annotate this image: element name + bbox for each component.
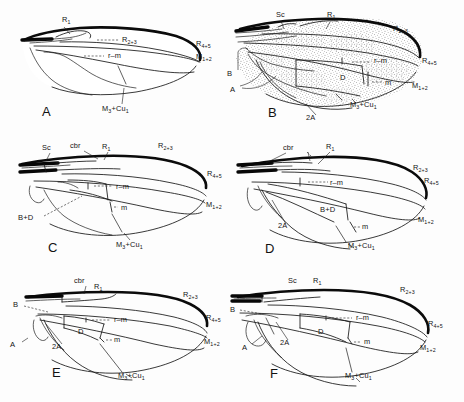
label-r45-b: R4+5 xyxy=(422,56,437,66)
panel-e-wing: E cbr R1 R2+3 B r–m R4+5 D m A 2A M1+2 M… xyxy=(10,276,221,381)
label-rm-e: r–m xyxy=(114,315,127,324)
label-sc-c: Sc xyxy=(42,143,51,152)
label-r45-d: R4+5 xyxy=(424,176,439,186)
label-m3cu1-c: M3+Cu1 xyxy=(116,240,143,250)
panel-letter-f: F xyxy=(270,366,278,381)
label-r1-c: R1 xyxy=(102,142,111,152)
label-m3cu1-d: M3+Cu1 xyxy=(348,241,375,251)
label-rm-c: r–m xyxy=(116,182,129,191)
panel-d-wing: D cbr R1 R2+3 R4+5 r–m B+D m M1+2 2A M3+… xyxy=(238,142,439,256)
label-r1-a: R1 xyxy=(62,15,71,25)
label-a-cell-e: A xyxy=(10,340,16,349)
label-2a-e: 2A xyxy=(52,342,61,351)
label-r1-d: R1 xyxy=(326,142,335,152)
label-rm-d: r–m xyxy=(330,178,343,187)
label-r23-c: R2+3 xyxy=(158,141,173,151)
label-sc-f: Sc xyxy=(288,276,297,285)
panel-letter-c: C xyxy=(48,240,58,255)
label-m-e: m xyxy=(114,335,120,344)
label-bd-cell-d: B+D xyxy=(320,205,336,214)
label-b-cell-f: B xyxy=(230,305,235,314)
panel-letter-e: E xyxy=(52,365,61,380)
label-m-b: m xyxy=(385,78,391,87)
label-r45-f: R4+5 xyxy=(428,319,443,329)
panel-letter-d: D xyxy=(265,241,275,256)
label-m12-b: M1+2 xyxy=(412,81,428,91)
label-m3cu1-f: M3+Cu1 xyxy=(345,371,372,381)
label-bd-cell-c: B+D xyxy=(18,213,34,222)
panel-a-wing: A R1 R2+3 r–m R4+5 M1+2 M3+Cu1 xyxy=(22,15,212,119)
label-r23-d: R2+3 xyxy=(413,163,428,173)
label-2a-d: 2A xyxy=(278,221,287,230)
label-m3cu1-b: M3+Cu1 xyxy=(350,100,377,110)
label-m12-c: M1+2 xyxy=(206,200,222,210)
panel-c-wing: C Sc cbr R1 R2+3 R4+5 r–m m M1+2 B+D M3+… xyxy=(18,141,222,255)
label-cbr-d: cbr xyxy=(283,143,294,152)
panel-letter-a: A xyxy=(42,104,51,119)
label-a-cell-f: A xyxy=(242,343,248,352)
label-d-cell-b: D xyxy=(340,73,346,82)
label-b-cell-e: B xyxy=(13,300,18,309)
label-rm-b: r–m xyxy=(374,56,387,65)
label-m-c: m xyxy=(121,203,127,212)
label-r45-a: R4+5 xyxy=(196,39,211,49)
label-r45-c: R4+5 xyxy=(207,169,222,179)
wing-venation-figure-plate: A R1 R2+3 r–m R4+5 M1+2 M3+Cu1 xyxy=(0,0,464,402)
label-m12-e: M1+2 xyxy=(204,337,220,347)
label-cbr-c: cbr xyxy=(70,141,81,150)
panel-f-wing: F Sc R1 R2+3 B r–m D R4+5 m A 2A M1+2 M3… xyxy=(230,276,443,386)
label-b-cell-b: B xyxy=(227,69,232,78)
label-2a-f: 2A xyxy=(280,338,289,347)
label-m3cu1-e: M3+Cu1 xyxy=(118,371,145,381)
label-d-cell-e: D xyxy=(78,327,84,336)
label-m12-a: M1+2 xyxy=(196,52,212,62)
label-rm-f: r–m xyxy=(356,313,369,322)
label-2a-b: 2A xyxy=(306,113,315,122)
label-m12-d: M1+2 xyxy=(418,215,434,225)
label-a-cell-b: A xyxy=(230,85,236,94)
panel-letter-b: B xyxy=(268,105,277,120)
label-m3cu1-a: M3+Cu1 xyxy=(102,104,129,114)
label-r1-e: R1 xyxy=(94,282,103,292)
label-rm-a: r–m xyxy=(108,51,121,60)
label-r1-f: R1 xyxy=(313,276,322,286)
plate-canvas: A R1 R2+3 r–m R4+5 M1+2 M3+Cu1 xyxy=(0,0,464,402)
label-m-f: m xyxy=(364,337,370,346)
label-r23-e: R2+3 xyxy=(183,290,198,300)
label-r1-b: R1 xyxy=(327,10,336,20)
label-r23-f: R2+3 xyxy=(400,285,415,295)
label-sc-b: Sc xyxy=(276,10,285,19)
label-d-cell-f: D xyxy=(318,327,324,336)
label-m-d: m xyxy=(362,222,368,231)
panel-b-wing: B Sc R1 R2+3 B A r–m D m R4+5 M1+2 2A M3… xyxy=(227,10,437,122)
label-m12-f: M1+2 xyxy=(420,343,436,353)
label-r45-e: R4+5 xyxy=(206,313,221,323)
label-cbr-e: cbr xyxy=(74,276,85,285)
